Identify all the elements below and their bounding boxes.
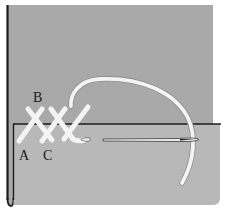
label-b: B <box>33 90 42 105</box>
label-c: C <box>43 148 52 163</box>
stitch-diagram: B A C <box>0 0 225 213</box>
label-a: A <box>19 148 30 163</box>
